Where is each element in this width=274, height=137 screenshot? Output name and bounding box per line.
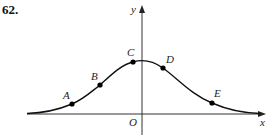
y-axis-arrow-icon xyxy=(139,5,145,13)
point-B: B xyxy=(91,70,103,88)
point-label-D: D xyxy=(165,53,174,65)
point-label-C: C xyxy=(127,46,135,58)
point-A: A xyxy=(62,89,75,107)
point-label-E: E xyxy=(213,87,221,99)
bell-curve xyxy=(27,61,260,114)
point-E: E xyxy=(209,87,221,106)
point-D: D xyxy=(160,53,174,71)
point-label-B: B xyxy=(91,70,98,82)
x-axis-label: x xyxy=(259,116,265,128)
x-axis xyxy=(27,111,266,117)
y-axis xyxy=(139,5,145,135)
problem-number: 62. xyxy=(2,2,18,17)
y-axis-label: y xyxy=(130,3,136,15)
diagram-canvas: 62. x y O A B C D E xyxy=(0,0,274,137)
point-C: C xyxy=(127,46,136,65)
point-label-A: A xyxy=(62,89,70,101)
origin-label: O xyxy=(129,116,137,128)
